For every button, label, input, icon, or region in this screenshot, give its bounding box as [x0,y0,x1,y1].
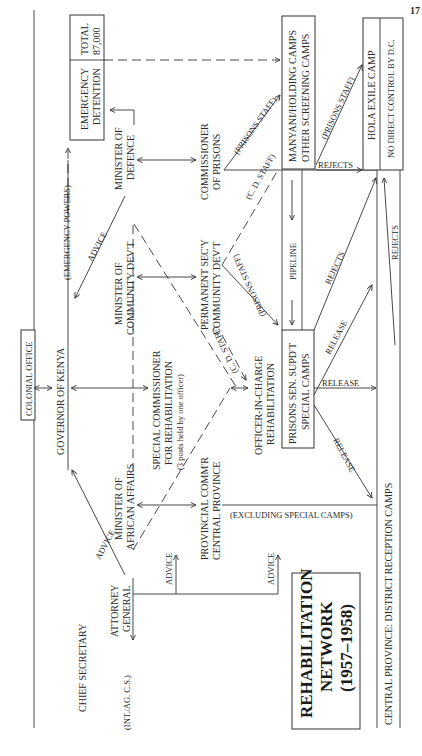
provincial-commr-node: PROVINCIAL COMM'R CENTRAL PROVINCE [199,457,222,560]
prisons-staff-label-3: (PRISONS STAFF) [319,75,357,141]
svg-text:AFRICAN AFFAIRS: AFRICAN AFFAIRS [125,464,136,550]
svg-text:FOR REHABILITATION: FOR REHABILITATION [163,361,174,465]
commissioner-prisons-node: COMMISSIONER OF PRISONS [199,123,222,200]
prisons-sen-supdt-node: PRISONS SEN. SUPD'T SPECIAL CAMPS [282,330,314,448]
advice-label-ag-2: ADVICE [266,553,276,585]
attorney-general-node: ATTORNEY GENERAL [109,584,132,637]
svg-text:COMMUNITY DEV'T: COMMUNITY DEV'T [211,242,222,335]
svg-text:MINISTER OF: MINISTER OF [113,127,124,190]
svg-text:OFFICER-IN-CHARGE: OFFICER-IN-CHARGE [253,356,264,455]
svg-text:SPECIAL COMMISSIONER: SPECIAL COMMISSIONER [151,350,162,470]
svg-text:REHABILITATION: REHABILITATION [297,568,316,718]
svg-text:MINISTER OF: MINISTER OF [113,477,124,540]
governor-node: GOVERNOR OF KENYA [55,347,66,455]
title-box: REHABILITATION NETWORK (1957–1958) [292,568,360,729]
svg-text:PROVINCIAL COMM'R: PROVINCIAL COMM'R [199,457,210,560]
svg-text:GENERAL: GENERAL [121,585,132,632]
svg-text:SPECIAL CAMPS: SPECIAL CAMPS [300,353,311,430]
cd-staff-label-1: (C. D. STAFF) [243,152,277,201]
special-commissioner-node: SPECIAL COMMISSIONER FOR REHABILITATION … [151,350,185,470]
district-reception-node: CENTRAL PROVINCE: DISTRICT RECEPTION CAM… [383,483,394,725]
officer-in-charge-node: OFFICER-IN-CHARGE REHABILITATION [253,356,276,455]
release-label-3: RELEASE [331,436,357,474]
permanent-secy-node: PERMANENT SEC'Y COMMUNITY DEV'T [199,239,222,335]
rejects-label-2: REJECTS [323,250,347,286]
advice-label-defence: ADVICE [85,230,109,263]
svg-text:TOTAL: TOTAL [79,23,90,55]
release-label-2: RELEASE [322,378,359,388]
svg-text:REHABILITATION: REHABILITATION [265,363,276,445]
pipeline-label: PIPELINE [288,243,298,280]
svg-text:MANYANI/HOLDING CAMPS: MANYANI/HOLDING CAMPS [287,30,298,162]
advice-label-african: ADVICE [93,528,117,561]
svg-text:OF PRISONS: OF PRISONS [211,134,222,190]
minister-defence-node: MINISTER OF DEFENCE [113,127,136,190]
svg-text:NETWORK: NETWORK [317,601,336,692]
hola-exile-camp-node: HOLA EXILE CAMP NO DIRECT CONTROL BY D.C… [363,18,403,170]
svg-text:HOLA EXILE CAMP: HOLA EXILE CAMP [366,50,377,140]
page-number: 17 [410,5,420,16]
release-label-1: RELEASE [323,318,349,356]
svg-text:COMMISSIONER: COMMISSIONER [199,123,210,200]
prisons-staff-label-2: (PRISONS STAFF) [231,95,278,156]
svg-text:NO DIRECT CONTROL BY D.C.: NO DIRECT CONTROL BY D.C. [386,39,396,158]
svg-text:87,000: 87,000 [91,28,102,56]
advice-label-ag-1: ADVICE [164,553,174,585]
svg-text:(INT./AG. C.S.): (INT./AG. C.S.) [122,675,132,730]
svg-text:DETENTION: DETENTION [91,68,102,125]
colonial-office-node: COLONIAL OFFICE [21,330,35,420]
svg-text:GOVERNOR OF KENYA: GOVERNOR OF KENYA [55,347,66,455]
svg-text:OTHER SCREENING CAMPS: OTHER SCREENING CAMPS [300,34,311,162]
svg-text:ATTORNEY: ATTORNEY [109,584,120,637]
svg-text:MINISTER OF: MINISTER OF [113,262,124,325]
svg-text:EMERGENCY: EMERGENCY [79,68,90,130]
prisons-staff-label-1: (PRISONS STAFF) [230,253,268,319]
rejects-label-3: REJECTS [390,225,400,260]
svg-text:COLONIAL OFFICE: COLONIAL OFFICE [24,341,34,416]
svg-text:COMMUNITY DEV'T: COMMUNITY DEV'T [125,242,136,335]
svg-text:(3 posts held by one officer): (3 posts held by one officer) [175,374,185,470]
emergency-powers-label: (EMERGENCY POWERS) [62,185,72,280]
svg-text:PERMANENT SEC'Y: PERMANENT SEC'Y [199,239,210,330]
manyani-camps-node: MANYANI/HOLDING CAMPS OTHER SCREENING CA… [282,16,315,169]
chief-secretary-node: CHIEF SECRETARY (INT./AG. C.S.) [77,624,132,730]
emergency-detention-node: EMERGENCY DETENTION TOTAL 87,000 [70,15,104,140]
svg-text:DEFENCE: DEFENCE [125,135,136,180]
svg-text:PRISONS SEN. SUPD'T: PRISONS SEN. SUPD'T [287,343,298,444]
rejects-label-1: REJECTS [318,160,353,170]
svg-text:CHIEF SECRETARY: CHIEF SECRETARY [77,624,88,712]
svg-text:(1957–1958): (1957–1958) [337,604,356,692]
svg-text:CENTRAL PROVINCE: CENTRAL PROVINCE [211,462,222,560]
excluding-special-label: (EXCLUDING SPECIAL CAMPS) [230,510,353,520]
minister-african-affairs-node: MINISTER OF AFRICAN AFFAIRS [113,464,136,550]
rehabilitation-network-diagram: 17 COLONIAL OFFICE GOVERNOR OF KENYA (EM… [0,0,422,756]
